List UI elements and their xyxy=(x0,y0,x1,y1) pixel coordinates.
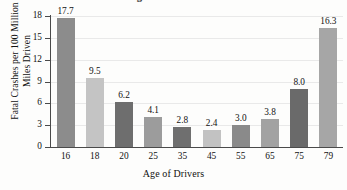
bar[interactable] xyxy=(261,119,279,147)
bar-value-label: 4.1 xyxy=(137,105,169,115)
bar[interactable] xyxy=(203,130,221,147)
y-axis-tick-label: 3 xyxy=(20,119,42,129)
bar[interactable] xyxy=(57,18,75,147)
x-axis-tick-label: 75 xyxy=(283,151,315,161)
gridline xyxy=(51,38,343,39)
x-axis-tick-label: 25 xyxy=(137,151,169,161)
bar[interactable] xyxy=(86,78,104,147)
x-axis-tick-label: 20 xyxy=(108,151,140,161)
bar-value-label: 3.0 xyxy=(225,113,257,123)
x-axis-tick-label: 16 xyxy=(50,151,82,161)
bar-chart-figure: Driver Age and Fatal Crashes Fatal Crash… xyxy=(0,0,347,190)
y-axis-tick xyxy=(45,103,50,104)
y-axis-tick-label: 12 xyxy=(20,54,42,64)
bar[interactable] xyxy=(173,127,191,147)
bar[interactable] xyxy=(232,125,250,147)
bar-value-label: 2.4 xyxy=(196,118,228,128)
y-axis-tick-label: 9 xyxy=(20,76,42,86)
y-axis-tick xyxy=(45,147,50,148)
y-axis-tick-label: 18 xyxy=(20,10,42,20)
chart-title-cropped: Driver Age and Fatal Crashes xyxy=(0,0,347,5)
bar[interactable] xyxy=(290,89,308,147)
y-axis-tick xyxy=(45,60,50,61)
bar-value-label: 6.2 xyxy=(108,90,140,100)
y-axis-tick xyxy=(45,38,50,39)
x-axis-title: Age of Drivers xyxy=(0,168,347,179)
x-axis-tick-label: 79 xyxy=(312,151,344,161)
bar[interactable] xyxy=(115,102,133,147)
bar-value-label: 2.8 xyxy=(166,115,198,125)
x-axis-tick-label: 18 xyxy=(79,151,111,161)
bar-value-label: 16.3 xyxy=(312,16,344,26)
chart-title-text: Driver Age and Fatal Crashes xyxy=(96,0,235,2)
y-axis-tick-label: 15 xyxy=(20,32,42,42)
bar-value-label: 17.7 xyxy=(50,6,82,16)
bar-value-label: 8.0 xyxy=(283,77,315,87)
bar-value-label: 9.5 xyxy=(79,66,111,76)
bar[interactable] xyxy=(144,117,162,147)
gridline xyxy=(51,16,343,17)
gridline xyxy=(51,60,343,61)
y-axis-tick-label: 6 xyxy=(20,97,42,107)
y-axis-tick xyxy=(45,125,50,126)
plot-area: 17.79.56.24.12.82.43.03.88.016.3 xyxy=(51,16,343,147)
x-axis-tick-label: 35 xyxy=(166,151,198,161)
x-axis-tick-label: 55 xyxy=(225,151,257,161)
x-axis-tick-label: 45 xyxy=(196,151,228,161)
x-axis-tick-label: 65 xyxy=(254,151,286,161)
y-axis-tick xyxy=(45,82,50,83)
y-axis-tick-label: 0 xyxy=(20,141,42,151)
bar-value-label: 3.8 xyxy=(254,107,286,117)
x-axis-line xyxy=(50,147,343,148)
bar[interactable] xyxy=(319,28,337,147)
